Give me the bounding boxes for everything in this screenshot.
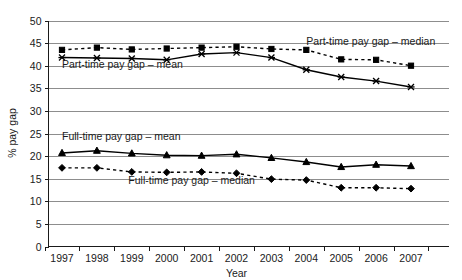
data-point-3-1998 [94,164,101,171]
series-2 [59,147,415,169]
data-point-1-2006 [373,78,380,84]
data-point-1-2002 [233,50,240,56]
data-point-0-2000 [164,46,169,51]
y-axis-title: % pay gap [6,108,18,158]
y-tick-label-20: 20 [30,150,42,162]
y-tick-label-45: 45 [30,37,42,49]
y-tick-label-0: 0 [36,241,42,253]
x-tick-label-2002: 2002 [225,252,249,264]
x-tick-label-2006: 2006 [364,252,388,264]
y-tick-label-35: 35 [30,82,42,94]
data-point-0-2006 [374,57,379,62]
data-point-0-1999 [129,47,134,52]
data-point-1-2001 [198,51,205,57]
data-point-3-1997 [59,164,66,171]
data-point-3-2003 [268,176,275,183]
x-axis-tick-labels: 1997199819992000200120022003200420052006… [50,252,423,264]
annotation-0: Part-time pay gap – median [306,35,435,47]
data-point-0-2001 [199,45,204,50]
x-tick-label-2004: 2004 [295,252,319,264]
x-tick-label-2003: 2003 [260,252,284,264]
data-point-0-1997 [59,47,64,52]
y-tick-label-5: 5 [36,218,42,230]
data-point-1-2007 [407,84,414,90]
y-tick-label-50: 50 [30,15,42,27]
data-point-3-2005 [338,184,345,191]
gridlines [49,22,449,225]
data-point-0-2007 [408,63,413,68]
data-point-3-2006 [373,184,380,191]
y-axis-tick-labels: 05101520253035404550 [30,15,42,253]
data-point-3-2004 [303,177,310,184]
annotation-2: Full-time pay gap – mean [62,130,181,142]
x-tick-label-2000: 2000 [155,252,179,264]
data-point-1-2003 [268,55,275,61]
x-tick-label-2007: 2007 [399,252,423,264]
x-tick-label-2001: 2001 [190,252,214,264]
y-tick-label-30: 30 [30,105,42,117]
series-annotations: Part-time pay gap – medianPart-time pay … [62,35,435,186]
x-tick-label-1998: 1998 [85,252,109,264]
data-point-0-2002 [234,44,239,49]
data-point-3-2007 [408,185,415,192]
y-tick-label-40: 40 [30,60,42,72]
data-point-0-2003 [269,46,274,51]
y-tick-label-25: 25 [30,128,42,140]
data-point-1-2004 [303,67,310,73]
annotation-1: Part-time pay gap – mean [62,58,183,70]
x-tick-label-1997: 1997 [50,252,74,264]
chart-canvas: 05101520253035404550 1997199819992000200… [0,0,462,280]
x-tick-label-2005: 2005 [330,252,354,264]
data-point-0-2004 [304,47,309,52]
y-tick-label-15: 15 [30,173,42,185]
x-tick-label-1999: 1999 [120,252,144,264]
y-tick-label-10: 10 [30,195,42,207]
pay-gap-line-chart: 05101520253035404550 1997199819992000200… [0,0,462,280]
data-point-0-2005 [339,57,344,62]
annotation-3: Full-time pay gap – median [128,174,255,186]
data-point-0-1998 [94,45,99,50]
data-point-1-2005 [338,74,345,80]
x-axis-title: Year [226,267,248,279]
